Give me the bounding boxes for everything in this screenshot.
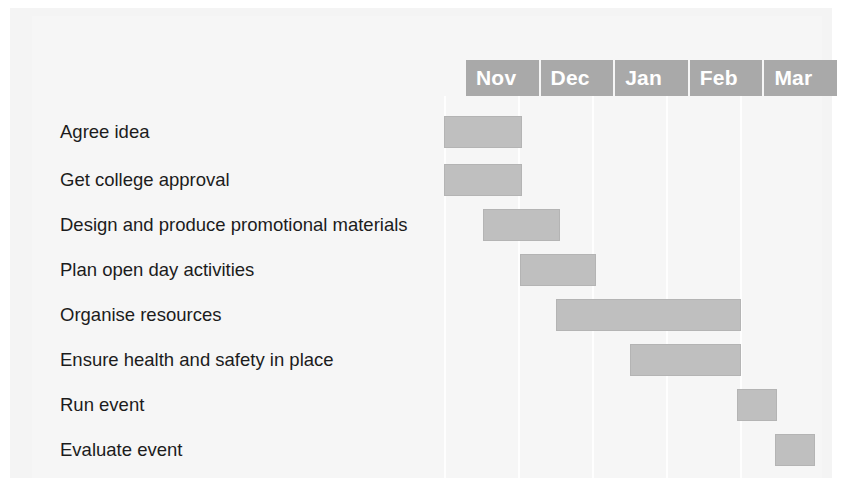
- gantt-row: Ensure health and safety in place: [32, 344, 822, 389]
- gantt-row: Evaluate event: [32, 434, 822, 479]
- task-label: Ensure health and safety in place: [60, 344, 334, 376]
- task-bar[interactable]: [556, 299, 741, 331]
- month-header-cell-mar: Mar: [764, 60, 837, 96]
- gantt-row: Plan open day activities: [32, 254, 822, 299]
- task-label: Agree idea: [60, 116, 149, 148]
- task-bar[interactable]: [444, 164, 522, 196]
- task-bar[interactable]: [775, 434, 815, 466]
- task-label: Get college approval: [60, 164, 230, 196]
- task-label: Organise resources: [60, 299, 221, 331]
- task-label: Plan open day activities: [60, 254, 254, 286]
- chart-plot-area: Nov Dec Jan Feb Mar Agree idea Get colle…: [32, 16, 822, 478]
- gantt-chart: Nov Dec Jan Feb Mar Agree idea Get colle…: [0, 0, 842, 494]
- task-bar[interactable]: [520, 254, 596, 286]
- month-header-cell-dec: Dec: [541, 60, 614, 96]
- task-label: Evaluate event: [60, 434, 182, 466]
- task-bar[interactable]: [737, 389, 777, 421]
- chart-panel: Nov Dec Jan Feb Mar Agree idea Get colle…: [10, 8, 832, 478]
- task-label: Design and produce promotional materials: [60, 209, 408, 241]
- gantt-row: Get college approval: [32, 164, 822, 209]
- task-bar[interactable]: [444, 116, 522, 148]
- gantt-row: Organise resources: [32, 299, 822, 344]
- gantt-row: Design and produce promotional materials: [32, 209, 822, 254]
- gantt-row: Run event: [32, 389, 822, 434]
- month-header-cell-jan: Jan: [615, 60, 688, 96]
- gantt-row: Agree idea: [32, 116, 822, 161]
- task-bar[interactable]: [630, 344, 741, 376]
- task-label: Run event: [60, 389, 144, 421]
- task-bar[interactable]: [483, 209, 560, 241]
- month-header-row: Nov Dec Jan Feb Mar: [466, 60, 837, 96]
- month-header-cell-feb: Feb: [690, 60, 763, 96]
- month-header-cell-nov: Nov: [466, 60, 539, 96]
